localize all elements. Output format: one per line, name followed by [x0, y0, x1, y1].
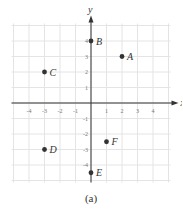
point-d — [42, 147, 47, 152]
x-tick-label: 2 — [121, 108, 124, 114]
x-tick-label: 1 — [105, 108, 108, 114]
y-tick-label: 4 — [85, 38, 88, 44]
point-label-c: C — [50, 67, 57, 78]
figure-caption: (a) — [0, 192, 182, 204]
point-label-e: E — [95, 167, 102, 178]
point-label-a: A — [126, 51, 134, 62]
x-tick-label: -4 — [27, 108, 32, 114]
x-tick-label: -1 — [73, 108, 78, 114]
x-tick-label: -2 — [58, 108, 63, 114]
point-b — [89, 39, 94, 44]
point-label-f: F — [111, 136, 119, 147]
point-a — [120, 54, 125, 59]
point-label-d: D — [49, 144, 58, 155]
y-tick-label: 2 — [85, 69, 88, 75]
x-tick-label: -3 — [42, 108, 47, 114]
y-tick-label: 1 — [85, 85, 88, 91]
y-tick-label: -4 — [83, 162, 88, 168]
axes: xy — [12, 4, 183, 183]
y-tick-label: -2 — [83, 131, 88, 137]
y-tick-label: -3 — [83, 147, 88, 153]
x-axis-arrow-icon — [172, 101, 179, 106]
y-axis-arrow-icon — [89, 16, 94, 23]
x-tick-label: 4 — [152, 108, 155, 114]
y-tick-label: -1 — [83, 116, 88, 122]
point-e — [89, 170, 94, 175]
coordinate-plane: xy -4-3-2-11234-4-3-2-11234 ABCDEF — [0, 0, 182, 190]
x-tick-label: 3 — [136, 108, 139, 114]
y-tick-label: 3 — [85, 54, 88, 60]
point-label-b: B — [96, 36, 102, 47]
y-axis-label: y — [87, 4, 93, 15]
point-c — [42, 70, 47, 75]
x-axis-label: x — [180, 97, 183, 108]
point-f — [104, 139, 109, 144]
